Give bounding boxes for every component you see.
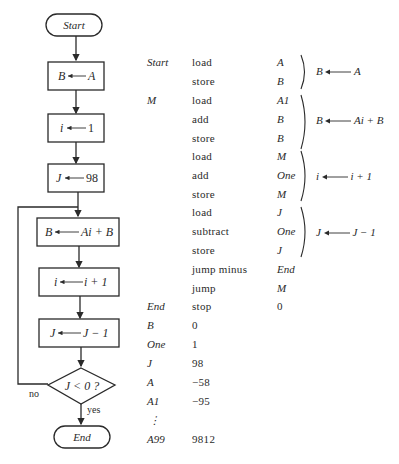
row-arg: B <box>277 130 284 146</box>
row-op: 1 <box>192 336 198 352</box>
annotation-3: i i + 1 <box>316 169 372 183</box>
row-op: store <box>192 186 215 202</box>
row-arg: One <box>277 167 295 183</box>
row-arg: M <box>277 280 286 296</box>
row-arg: A <box>277 54 284 70</box>
row-op: load <box>192 54 212 70</box>
ellipsis-vertical: ⋮ <box>149 412 160 428</box>
row-op: jump minus <box>192 261 247 277</box>
row-arg: 0 <box>277 298 283 314</box>
brace-1 <box>300 54 310 90</box>
program-listing: Start load A store B M load A1 add B sto… <box>0 0 399 464</box>
annotation-1: B A <box>316 64 361 78</box>
row-op: stop <box>192 298 212 314</box>
brace-2 <box>300 94 310 150</box>
row-op: load <box>192 204 212 220</box>
row-label: M <box>147 92 156 108</box>
row-arg: End <box>277 261 295 277</box>
row-label: J <box>147 355 152 371</box>
row-label: One <box>147 336 165 352</box>
row-arg: M <box>277 148 286 164</box>
row-arg: A1 <box>277 92 289 108</box>
row-label: Start <box>147 54 168 70</box>
row-op: 0 <box>192 317 198 333</box>
row-arg: M <box>277 186 286 202</box>
row-op: jump <box>192 280 216 296</box>
row-op: store <box>192 130 215 146</box>
row-op: add <box>192 111 209 127</box>
annotation-2: B Ai + B <box>316 113 383 127</box>
row-label: End <box>147 298 165 314</box>
row-op: subtract <box>192 223 229 239</box>
row-label: A1 <box>147 393 159 409</box>
row-label: A99 <box>147 431 165 447</box>
row-op: 98 <box>192 355 204 371</box>
brace-4 <box>300 206 310 258</box>
row-op: load <box>192 148 212 164</box>
row-op: store <box>192 242 215 258</box>
row-arg: J <box>277 204 282 220</box>
row-arg: B <box>277 111 284 127</box>
row-label: A <box>147 374 154 390</box>
row-op: 9812 <box>192 431 215 447</box>
annotation-4: J J − 1 <box>316 225 376 239</box>
row-arg: B <box>277 73 284 89</box>
row-arg: J <box>277 242 282 258</box>
row-label: B <box>147 317 154 333</box>
brace-3 <box>300 150 310 202</box>
row-op: load <box>192 92 212 108</box>
row-arg: One <box>277 223 295 239</box>
row-op: store <box>192 73 215 89</box>
row-op: −58 <box>192 374 210 390</box>
row-op: −95 <box>192 393 210 409</box>
row-op: add <box>192 167 209 183</box>
